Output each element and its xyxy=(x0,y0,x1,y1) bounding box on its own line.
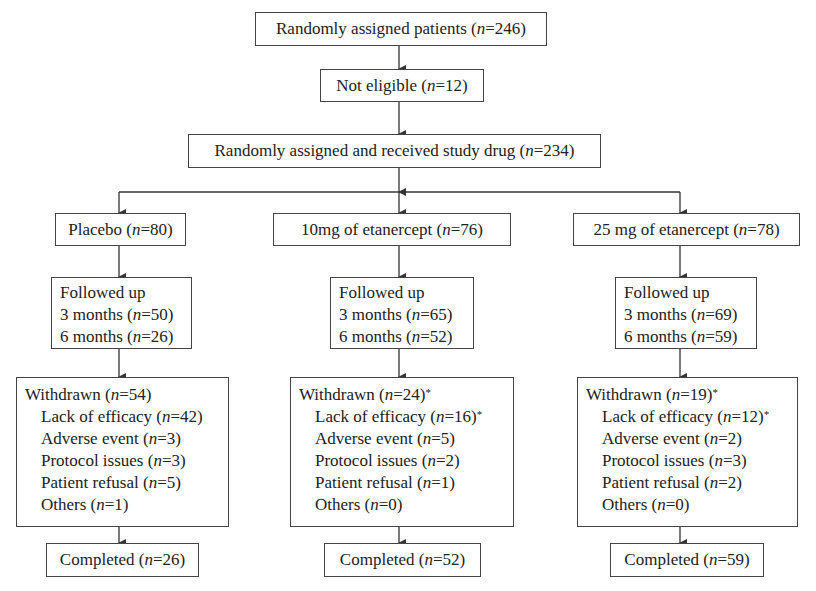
followed-up-box-10mg: Followed up 3 months (n=65) 6 months (n=… xyxy=(330,277,474,349)
count: 26 xyxy=(162,549,179,571)
withdrawal-reason: Patient refusal (n=5) xyxy=(25,472,228,494)
withdrawal-reason: Adverse event (n=5) xyxy=(299,428,513,450)
withdrawal-reason: Patient refusal (n=2) xyxy=(586,472,797,494)
withdrawal-reason: Others (n=0) xyxy=(586,494,797,516)
followed-row: 3 months (n=69) xyxy=(624,304,756,326)
count: 78 xyxy=(757,219,774,241)
received-drug-box: Randomly assigned and received study dru… xyxy=(188,134,601,168)
followed-row: 3 months (n=50) xyxy=(60,304,191,326)
withdrawal-reason: Lack of efficacy (n=42) xyxy=(25,406,228,428)
withdrawal-reason: Protocol issues (n=2) xyxy=(299,450,513,472)
withdrawn-total: Withdrawn (n=54) xyxy=(25,384,228,406)
withdrawal-reason: Others (n=1) xyxy=(25,494,228,516)
arm-name: 25 mg of etanercept xyxy=(593,219,728,241)
withdrawal-reason: Protocol issues (n=3) xyxy=(25,450,228,472)
box-label: Completed xyxy=(340,549,415,571)
arm-box-placebo: Placebo (n=80) xyxy=(55,213,186,246)
followed-up-box-25mg: Followed up 3 months (n=69) 6 months (n=… xyxy=(615,277,757,349)
arm-name: 10mg of etanercept xyxy=(301,219,432,241)
randomly-assigned-box: Randomly assigned patients (n=246) xyxy=(255,12,547,46)
count: 76 xyxy=(460,219,477,241)
withdrawal-reason: Adverse event (n=3) xyxy=(25,428,228,450)
withdrawal-reason: Protocol issues (n=3) xyxy=(586,450,797,472)
withdrawn-box-25mg: Withdrawn (n=19)* Lack of efficacy (n=12… xyxy=(577,377,798,527)
count: 12 xyxy=(445,75,462,97)
box-label: Randomly assigned and received study dru… xyxy=(215,140,516,162)
withdrawn-box-10mg: Withdrawn (n=24)* Lack of efficacy (n=16… xyxy=(290,377,514,527)
followed-up-box-placebo: Followed up 3 months (n=50) 6 months (n=… xyxy=(51,277,192,349)
count: 246 xyxy=(495,18,521,40)
withdrawn-box-placebo: Withdrawn (n=54) Lack of efficacy (n=42)… xyxy=(16,377,229,527)
box-label: Not eligible xyxy=(336,75,417,97)
followed-row: 6 months (n=52) xyxy=(339,326,473,348)
withdrawal-reason: Adverse event (n=2) xyxy=(586,428,797,450)
followed-row: 6 months (n=26) xyxy=(60,326,191,348)
withdrawn-total: Withdrawn (n=19)* xyxy=(586,384,797,406)
completed-box-10mg: Completed (n=52) xyxy=(324,543,481,577)
count: 59 xyxy=(727,549,744,571)
withdrawal-reason: Others (n=0) xyxy=(299,494,513,516)
followed-row: 6 months (n=59) xyxy=(624,326,756,348)
arm-box-25mg: 25 mg of etanercept (n=78) xyxy=(573,213,800,246)
followed-title: Followed up xyxy=(624,282,756,304)
count: 52 xyxy=(442,549,459,571)
withdrawal-reason: Patient refusal (n=1) xyxy=(299,472,513,494)
count: 80 xyxy=(150,219,167,241)
arm-box-10mg: 10mg of etanercept (n=76) xyxy=(273,213,511,246)
count: 234 xyxy=(543,140,569,162)
completed-box-placebo: Completed (n=26) xyxy=(46,543,199,577)
box-label: Completed xyxy=(60,549,135,571)
arm-name: Placebo xyxy=(68,219,122,241)
significance-asterisk: * xyxy=(764,408,770,420)
followed-title: Followed up xyxy=(60,282,191,304)
withdrawal-reason: Lack of efficacy (n=12)* xyxy=(586,406,797,428)
box-label: Completed xyxy=(624,549,699,571)
withdrawal-reason: Lack of efficacy (n=16)* xyxy=(299,406,513,428)
withdrawn-total: Withdrawn (n=24)* xyxy=(299,384,513,406)
completed-box-25mg: Completed (n=59) xyxy=(610,543,764,577)
not-eligible-box: Not eligible (n=12) xyxy=(320,69,484,102)
box-label: Randomly assigned patients xyxy=(276,18,467,40)
significance-asterisk: * xyxy=(477,408,483,420)
followed-title: Followed up xyxy=(339,282,473,304)
significance-asterisk: * xyxy=(712,386,718,398)
followed-row: 3 months (n=65) xyxy=(339,304,473,326)
significance-asterisk: * xyxy=(425,386,431,398)
